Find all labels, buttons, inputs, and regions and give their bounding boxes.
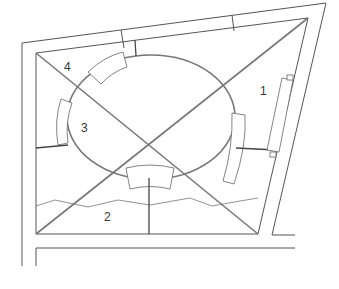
label-3: 3 — [81, 121, 88, 135]
panel-2 — [126, 165, 174, 234]
diagonal-cables — [36, 18, 308, 234]
label-2: 2 — [104, 210, 111, 224]
panel-4 — [88, 52, 127, 84]
label-4: 4 — [64, 60, 71, 74]
floor-plan — [0, 0, 339, 289]
terrain-line — [36, 198, 258, 207]
panel-3 — [36, 99, 72, 148]
panel-1 — [267, 75, 293, 157]
top-strut — [135, 40, 136, 56]
lower-wall — [36, 248, 295, 266]
label-1: 1 — [260, 84, 267, 98]
